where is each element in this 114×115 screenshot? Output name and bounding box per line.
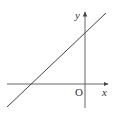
x-axis-label: x bbox=[101, 86, 107, 98]
origin-label: O bbox=[75, 86, 83, 98]
graph-line bbox=[7, 13, 106, 107]
y-axis-label: y bbox=[74, 9, 80, 21]
coordinate-diagram: O x y bbox=[0, 0, 114, 115]
